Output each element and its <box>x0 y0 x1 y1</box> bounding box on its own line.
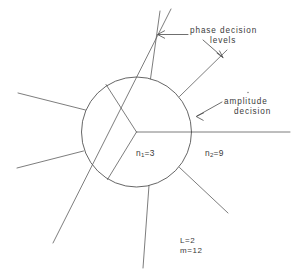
crossing-decision-line <box>53 9 171 243</box>
parameters-label: L=2 m=12 <box>180 236 203 256</box>
outer-spoke-lower-left <box>17 151 84 168</box>
outer-spoke-bottom <box>143 186 149 269</box>
diagram-canvas: phase decision levels amplitude decision… <box>0 0 294 276</box>
amplitude-decision-label-line1: amplitude <box>224 97 268 106</box>
outer-region-value: =9 <box>214 148 224 158</box>
outer-spoke-upper-right <box>180 50 228 97</box>
outer-region-label: n2=9 <box>205 148 224 159</box>
amplitude-decision-label-line2: decision <box>224 107 271 117</box>
outer-spoke-lower-right <box>180 168 229 214</box>
parameter-L: L=2 <box>180 236 203 246</box>
outer-spoke-upper-left <box>18 93 86 110</box>
inner-region-value: =3 <box>145 148 155 158</box>
inner-radius-240deg <box>108 132 137 180</box>
amplitude-decision-label: amplitude decision <box>224 97 271 118</box>
parameter-m: m=12 <box>180 246 203 256</box>
inner-region-label: n1=3 <box>136 148 155 159</box>
phase-decision-label-line1: phase decision <box>190 26 257 35</box>
phase-decision-label: phase decision levels <box>190 26 257 47</box>
phase-decision-label-line2: levels <box>190 36 257 46</box>
ink-speck <box>247 92 248 93</box>
outer-spoke-vertical <box>151 11 161 79</box>
